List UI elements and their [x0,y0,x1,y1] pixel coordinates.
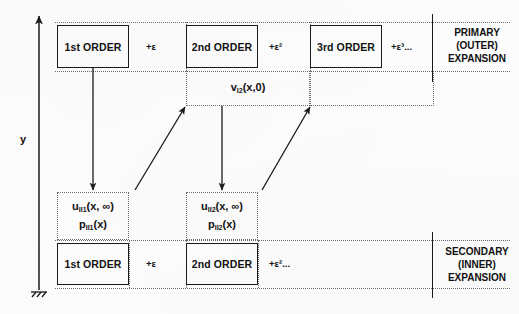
u1-args: (x, ∞) [87,200,114,212]
primary-3rd-order-box: 3rd ORDER [310,25,382,68]
u2-args: (x, ∞) [216,200,243,212]
primary-1st-order-label: 1st ORDER [65,41,122,53]
diagram-canvas: y 1st ORDER 2nd ORDER 3rd ORDER +ε +ε² +… [0,0,519,314]
y-axis-label: y [20,133,26,145]
secondary-expansion-side-label: SECONDARY (INNER) EXPANSION [438,245,516,284]
secondary-1st-order-label: 1st ORDER [65,258,122,270]
p2-args: (x) [223,218,236,230]
diagram-layer: y 1st ORDER 2nd ORDER 3rd ORDER +ε +ε² +… [0,0,519,314]
secondary-cell-divider-0 [129,240,130,288]
u1-subscript: II1 [79,206,87,213]
inner-second-u-label: uII2(x, ∞) [201,200,243,215]
v-args: (x,0) [243,81,266,93]
inner-second-order-fields-box: uII2(x, ∞) pII2(x) [186,192,258,240]
primary-2nd-order-label: 2nd ORDER [192,41,252,53]
inner-first-order-fields-box: uII1(x, ∞) pII1(x) [57,192,129,240]
p1-subscript: II1 [86,224,94,231]
primary-2nd-order-box: 2nd ORDER [186,25,258,68]
primary-expansion-side-label: PRIMARY (OUTER) EXPANSION [440,26,514,65]
primary-3rd-order-label: 3rd ORDER [317,41,375,53]
secondary-2nd-order-box: 2nd ORDER [186,243,258,285]
matching-field-v-box: vI2(x,0) [186,71,310,106]
primary-coef-epsilon-2: +ε² [269,41,282,52]
p1-args: (x) [94,218,107,230]
primary-coef-epsilon-3: +ε³... [391,41,412,52]
p2-subscript: II2 [215,224,223,231]
inner-first-p-label: pII1(x) [79,218,107,233]
matching-field-v-label: vI2(x,0) [231,81,266,96]
secondary-side-divider [432,232,433,298]
inner-second-p-label: pII2(x) [208,218,236,233]
primary-1st-order-box: 1st ORDER [57,25,129,68]
secondary-1st-order-box: 1st ORDER [57,243,129,285]
secondary-coef-epsilon-1: +ε [146,258,156,269]
primary-band-top-line [55,22,510,23]
secondary-band-top-line [55,240,510,241]
secondary-cell-divider-2 [258,240,259,288]
secondary-band-bottom-line [55,288,510,289]
primary-coef-epsilon-1: +ε [146,41,156,52]
matching-field-third-order-box [310,71,434,106]
inner-first-u-label: uII1(x, ∞) [72,200,114,215]
secondary-coef-epsilon-2: +ε²... [269,258,290,269]
u2-subscript: II2 [208,206,216,213]
secondary-2nd-order-label: 2nd ORDER [192,258,252,270]
